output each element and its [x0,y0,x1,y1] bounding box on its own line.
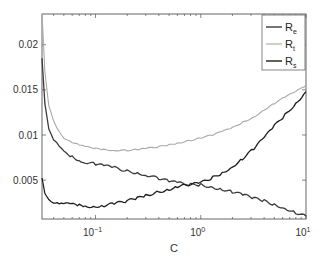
y-tick-label: 0.005 [13,175,38,186]
x-axis-label: C [170,242,178,254]
y-tick-label: 0.015 [13,84,38,95]
x-tick-label: 100 [190,226,205,238]
x-tick-label: 101 [295,226,310,238]
legend-box [262,15,305,70]
y-axis-tick-labels: 0.0050.010.0150.02 [13,39,38,185]
x-tick-label: 10−1 [83,226,102,238]
x-axis-tick-labels: 10−1100101 [83,226,311,238]
legend: ReRtRs [262,15,305,70]
y-tick-label: 0.01 [19,130,39,141]
line-chart: 0.0050.010.0150.02 10−1100101 C ReRtRs [0,0,326,264]
y-tick-label: 0.02 [19,39,39,50]
